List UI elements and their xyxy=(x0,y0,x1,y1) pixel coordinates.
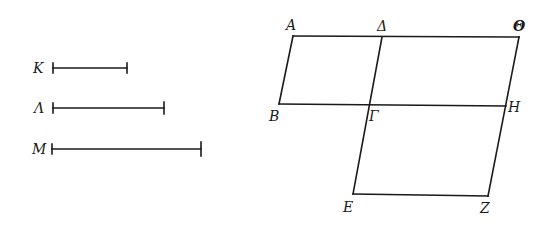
line-b-h xyxy=(279,104,506,106)
label-b: Β xyxy=(268,108,279,124)
line-a-b xyxy=(279,36,293,104)
line-a-theta xyxy=(293,36,519,37)
segment-mu: Μ xyxy=(31,141,201,157)
parallelogram-figure: Α Δ Θ Β Γ Η Ε Ζ xyxy=(268,17,526,216)
geometric-diagram: Κ Λ Μ Α Δ Θ Β Γ Η Ε Ζ xyxy=(0,0,546,226)
label-z: Ζ xyxy=(479,200,490,216)
label-mu: Μ xyxy=(31,141,47,157)
label-e: Ε xyxy=(342,199,353,215)
label-lambda: Λ xyxy=(32,100,44,116)
label-theta: Θ xyxy=(513,18,526,34)
segment-k: Κ xyxy=(32,60,127,76)
segment-lambda: Λ xyxy=(32,100,164,116)
label-h: Η xyxy=(507,99,521,115)
line-e-z xyxy=(353,194,488,196)
line-theta-z xyxy=(488,37,519,196)
label-k: Κ xyxy=(32,60,45,76)
label-delta: Δ xyxy=(376,18,387,34)
label-a: Α xyxy=(284,17,296,33)
label-gamma: Γ xyxy=(368,108,380,124)
